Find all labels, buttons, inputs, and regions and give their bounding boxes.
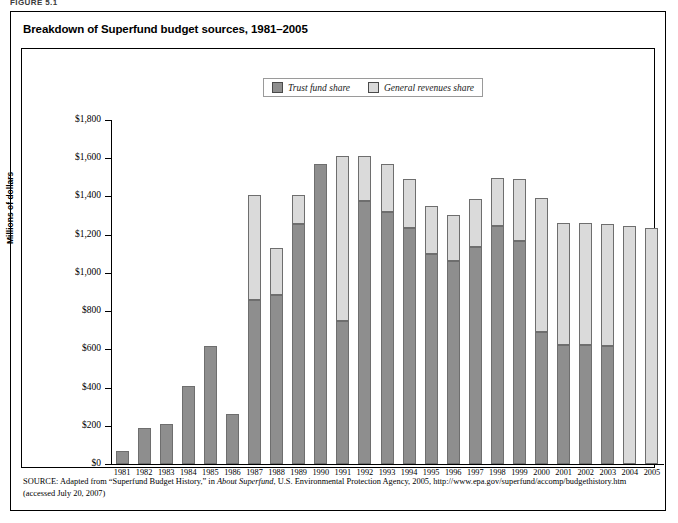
legend-item-general-revenues: General revenues share xyxy=(368,82,474,93)
bar-segment-trust-fund xyxy=(469,247,482,464)
bar-segment-general-revenues xyxy=(248,195,261,300)
bar-1992 xyxy=(358,120,371,464)
source-keyword: SOURCE: xyxy=(23,477,58,486)
bar-1984 xyxy=(182,120,195,464)
bar-1982 xyxy=(138,120,151,464)
bar-2003 xyxy=(601,120,614,464)
bar-1988 xyxy=(270,120,283,464)
bar-1993 xyxy=(381,120,394,464)
bar-segment-trust-fund xyxy=(160,424,173,464)
bar-segment-trust-fund xyxy=(403,228,416,464)
y-axis-tick-label: $600 xyxy=(11,343,101,353)
legend-label: General revenues share xyxy=(384,83,474,93)
y-axis-tick-text: $1,400 xyxy=(11,190,101,200)
y-axis-tick-label: $1,400 xyxy=(11,190,101,200)
bar-1997 xyxy=(469,120,482,464)
y-axis-tick-text: $600 xyxy=(11,343,101,353)
figure-header: FIGURE 5.1 xyxy=(10,0,58,7)
y-axis-tick-text: $1,800 xyxy=(11,114,101,124)
figure-box: Breakdown of Superfund budget sources, 1… xyxy=(10,11,666,511)
bar-1995 xyxy=(425,120,438,464)
bar-1999 xyxy=(513,120,526,464)
legend-item-trust-fund: Trust fund share xyxy=(272,82,350,93)
bar-segment-trust-fund xyxy=(425,254,438,464)
bar-1983 xyxy=(160,120,173,464)
bar-1985 xyxy=(204,120,217,464)
bar-segment-general-revenues xyxy=(601,224,614,345)
page-title: Breakdown of Superfund budget sources, 1… xyxy=(23,23,308,35)
source-note: SOURCE: Adapted from “Superfund Budget H… xyxy=(23,476,643,499)
bar-segment-general-revenues xyxy=(425,206,438,254)
bar-segment-general-revenues xyxy=(535,198,548,332)
bar-segment-general-revenues xyxy=(623,226,636,464)
bar-segment-trust-fund xyxy=(226,414,239,464)
y-axis-tick-text: $1,000 xyxy=(11,267,101,277)
chart-legend: Trust fund shareGeneral revenues share xyxy=(263,78,483,97)
y-axis-tick-label: $1,000 xyxy=(11,267,101,277)
y-axis-tick-mark xyxy=(105,464,111,465)
bar-segment-trust-fund xyxy=(579,345,592,464)
bar-segment-general-revenues xyxy=(403,179,416,228)
bar-segment-trust-fund xyxy=(182,386,195,464)
bar-segment-general-revenues xyxy=(336,156,349,320)
bar-segment-trust-fund xyxy=(358,201,371,464)
y-axis-tick-label: $1,600 xyxy=(11,152,101,162)
x-axis-line xyxy=(111,464,664,465)
legend-label: Trust fund share xyxy=(288,83,350,93)
bar-segment-general-revenues xyxy=(381,164,394,212)
y-axis-tick-label: $1,200 xyxy=(11,229,101,239)
bar-segment-general-revenues xyxy=(513,179,526,241)
y-axis-tick-text: $0 xyxy=(11,458,101,468)
bar-1996 xyxy=(447,120,460,464)
y-axis-tick-text: $1,600 xyxy=(11,152,101,162)
bar-segment-general-revenues xyxy=(469,199,482,247)
y-axis-tick-text: $1,200 xyxy=(11,229,101,239)
bar-2000 xyxy=(535,120,548,464)
y-axis-tick-label: $400 xyxy=(11,382,101,392)
bar-segment-general-revenues xyxy=(557,223,570,344)
bar-1994 xyxy=(403,120,416,464)
x-axis-tick-label: 2005 xyxy=(641,468,663,477)
bar-1991 xyxy=(336,120,349,464)
bar-segment-general-revenues xyxy=(645,228,658,464)
y-axis-tick-label: $1,800 xyxy=(11,114,101,124)
y-axis-tick-label: $0 xyxy=(11,458,101,468)
bar-2002 xyxy=(579,120,592,464)
bar-segment-general-revenues xyxy=(491,178,504,226)
legend-swatch-icon xyxy=(368,82,379,93)
bar-segment-trust-fund xyxy=(292,224,305,464)
bar-segment-trust-fund xyxy=(381,212,394,464)
bar-segment-trust-fund xyxy=(535,332,548,464)
bar-segment-trust-fund xyxy=(270,295,283,464)
bar-2005 xyxy=(645,120,658,464)
y-axis-label: Millions of dollars xyxy=(5,172,15,244)
bar-segment-trust-fund xyxy=(513,241,526,464)
bar-segment-general-revenues xyxy=(270,248,283,295)
bar-segment-trust-fund xyxy=(138,428,151,464)
bar-segment-general-revenues xyxy=(292,195,305,225)
bar-segment-general-revenues xyxy=(579,223,592,344)
y-axis-tick-label: $800 xyxy=(11,305,101,315)
bar-2004 xyxy=(623,120,636,464)
bar-1986 xyxy=(226,120,239,464)
bar-segment-trust-fund xyxy=(248,300,261,464)
bar-1987 xyxy=(248,120,261,464)
bar-segment-trust-fund xyxy=(336,321,349,464)
bar-segment-trust-fund xyxy=(314,164,327,464)
bar-segment-general-revenues xyxy=(447,215,460,262)
bar-segment-trust-fund xyxy=(557,345,570,464)
source-text-1: Adapted from “Superfund Budget History,”… xyxy=(58,477,217,486)
bar-segment-general-revenues xyxy=(358,156,371,201)
bar-segment-trust-fund xyxy=(204,346,217,464)
bar-1981 xyxy=(116,120,129,464)
source-italic-title: About Superfund xyxy=(217,477,274,486)
bar-2001 xyxy=(557,120,570,464)
bar-segment-trust-fund xyxy=(491,226,504,464)
y-axis-tick-text: $400 xyxy=(11,382,101,392)
bar-segment-trust-fund xyxy=(447,261,460,464)
plot-area xyxy=(111,120,663,464)
bar-segment-trust-fund xyxy=(116,451,129,464)
bar-1998 xyxy=(491,120,504,464)
y-axis-tick-text: $800 xyxy=(11,305,101,315)
legend-swatch-icon xyxy=(272,82,283,93)
